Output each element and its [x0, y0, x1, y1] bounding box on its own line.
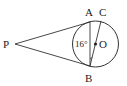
center-point-o — [94, 42, 97, 45]
label-b: B — [85, 72, 92, 84]
label-a: A — [85, 6, 93, 18]
geometry-diagram: P A C B O 16° — [0, 0, 127, 86]
angle-label: 16° — [75, 39, 88, 49]
label-c: C — [99, 6, 106, 18]
label-o: O — [99, 38, 107, 50]
label-p: P — [3, 38, 9, 50]
